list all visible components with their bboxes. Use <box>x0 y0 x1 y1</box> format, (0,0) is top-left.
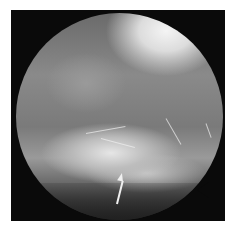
tissue-fiber <box>206 123 212 137</box>
scope-orientation-notch <box>197 182 209 198</box>
tissue-fiber <box>86 126 126 134</box>
tissue-fiber <box>166 118 182 144</box>
tissue-fiber <box>101 138 135 148</box>
image-frame: Grayscale arthroscopic view in a circula… <box>11 10 225 221</box>
